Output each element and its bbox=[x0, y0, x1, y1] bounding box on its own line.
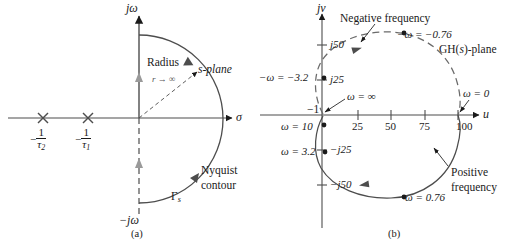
marker-label-omega-10: ω = 10 bbox=[281, 121, 313, 132]
caption-a: (a) bbox=[131, 228, 143, 239]
gh-plane-label: GH(s)-plane bbox=[439, 44, 497, 56]
minus-one-label: −1 bbox=[307, 104, 319, 116]
positive-branch-direction-arrow bbox=[359, 181, 370, 189]
omega-zero-leader bbox=[460, 100, 469, 112]
pole-label-tau2-denominator: τ2 bbox=[36, 139, 46, 152]
gamma-glyph: Γ bbox=[171, 190, 178, 202]
negative-branch-direction-arrow bbox=[351, 45, 362, 54]
positive-frequency-label-line1: Positive bbox=[451, 167, 488, 179]
positive-frequency-leader bbox=[434, 148, 448, 166]
gamma-s-symbol: Γs bbox=[171, 191, 181, 205]
pole-label-tau1: − 1 τ1 bbox=[75, 127, 91, 153]
u-axis-label: u bbox=[483, 108, 489, 120]
u-tick-label-75: 75 bbox=[419, 121, 430, 132]
positive-frequency-label-line2: frequency bbox=[451, 182, 497, 194]
point-omega-10 bbox=[322, 123, 327, 128]
v-tick-label-minus-j50: −j50 bbox=[330, 179, 351, 190]
s-plane-label: s-plane bbox=[198, 64, 232, 76]
radius-value-label: r → ∞ bbox=[152, 75, 175, 84]
marker-label-omega-0p76: ω = 0.76 bbox=[405, 192, 445, 203]
contour-direction-arrow-upper bbox=[135, 72, 143, 82]
nyquist-contour-label-line2: contour bbox=[201, 180, 236, 192]
minus-jomega-axis-label: −jω bbox=[119, 214, 139, 226]
u-tick-label-25: 25 bbox=[352, 121, 363, 132]
gamma-subscript: s bbox=[178, 195, 181, 204]
pole-label-tau1-fraction: 1 τ1 bbox=[81, 127, 91, 153]
marker-label-omega-neg-3p2: −ω = −3.2 bbox=[259, 72, 308, 83]
radius-label: Radius bbox=[147, 57, 179, 69]
pole-label-tau2-fraction: 1 τ2 bbox=[36, 127, 46, 153]
semicircle-arrow-top bbox=[183, 57, 196, 70]
v-tick-label-j50: j50 bbox=[330, 39, 344, 50]
point-omega-neg-3p2 bbox=[322, 76, 327, 81]
marker-label-omega-3p2: ω = 3.2 bbox=[281, 146, 315, 157]
marker-label-omega-neg-0p76: −ω = −0.76 bbox=[397, 29, 452, 40]
omega-infinity-leader bbox=[325, 99, 345, 112]
point-omega-3p2 bbox=[323, 150, 328, 155]
pole-label-tau2: − 1 τ2 bbox=[30, 127, 46, 153]
u-tick-label-50: 50 bbox=[385, 121, 396, 132]
s-plane-label-text: s-plane bbox=[198, 63, 232, 75]
marker-label-omega-infinity: ω = ∞ bbox=[347, 91, 376, 102]
jv-axis-label: jv bbox=[317, 2, 326, 14]
sigma-axis-label: σ bbox=[236, 111, 242, 123]
v-tick-label-minus-j25: −j25 bbox=[330, 144, 351, 155]
pole-label-tau1-denominator: τ1 bbox=[81, 139, 91, 152]
panel-b-gh-plane: jv u GH(s)-plane Negative frequency Posi… bbox=[257, 0, 514, 250]
u-tick-label-100: 100 bbox=[456, 121, 473, 132]
jomega-axis-label: jω bbox=[126, 2, 138, 14]
panel-a-s-plane: jω −jω σ Radius r → ∞ s-plane Nyquist co… bbox=[0, 0, 257, 250]
nyquist-contour-label-line1: Nyquist bbox=[201, 165, 237, 177]
v-tick-label-j25: j25 bbox=[330, 74, 344, 85]
figure-root: jω −jω σ Radius r → ∞ s-plane Nyquist co… bbox=[0, 0, 514, 250]
caption-b: (b) bbox=[388, 228, 400, 239]
negative-frequency-label: Negative frequency bbox=[340, 13, 430, 25]
contour-direction-arrow-lower bbox=[135, 158, 143, 168]
marker-label-omega-zero: ω = 0 bbox=[463, 88, 489, 99]
